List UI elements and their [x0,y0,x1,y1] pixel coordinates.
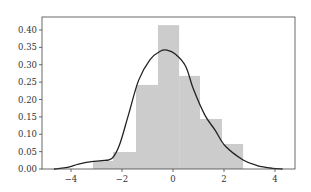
y-tick-label: 0.15 [18,112,37,122]
histogram-bar [136,85,158,169]
histogram-bar [158,25,179,169]
x-tick-label: −4 [65,174,78,184]
histogram-bar [200,119,222,169]
x-tick-label: 4 [272,174,277,184]
histogram-bar [113,152,136,169]
x-tick-label: 2 [221,174,226,184]
histogram-bars [93,25,243,169]
histogram-kde-chart: −4−2024 0.000.050.100.150.200.250.300.35… [0,0,311,192]
y-tick-label: 0.35 [18,42,37,52]
y-tick-label: 0.40 [18,25,37,35]
histogram-bar [179,76,200,169]
x-tick-label: −2 [116,174,129,184]
y-tick-label: 0.30 [18,60,37,70]
y-tick-label: 0.10 [18,129,37,139]
x-axis: −4−2024 [65,169,278,184]
y-tick-label: 0.05 [18,147,37,157]
y-tick-label: 0.00 [18,164,37,174]
y-axis: 0.000.050.100.150.200.250.300.350.40 [18,25,42,174]
y-tick-label: 0.20 [18,95,37,105]
histogram-bar [93,161,113,169]
x-tick-label: 0 [170,174,175,184]
y-tick-label: 0.25 [18,77,37,87]
histogram-bar [222,144,243,169]
